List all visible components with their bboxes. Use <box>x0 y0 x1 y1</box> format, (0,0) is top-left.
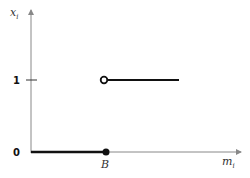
x-axis-label: mi <box>222 155 235 170</box>
filled-dot-B <box>103 149 110 156</box>
y-tick-label-1: 1 <box>13 75 20 86</box>
y-tick-label-0: 0 <box>13 147 20 158</box>
x-mark-label-B: B <box>100 158 109 171</box>
step-function-diagram: xi mi 1 0 B <box>0 0 250 178</box>
open-dot-B <box>101 77 108 84</box>
y-axis-label: xi <box>10 6 18 21</box>
